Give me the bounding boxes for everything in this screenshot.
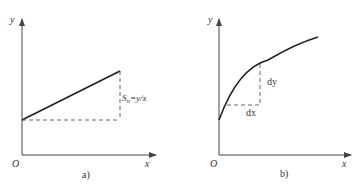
a-y-label: y: [10, 14, 14, 25]
a-origin-label: O: [12, 158, 19, 169]
diagram-canvas: [0, 0, 358, 186]
b-origin-label: O: [210, 158, 217, 169]
b-y-label: y: [208, 14, 212, 25]
a-linear-line: [22, 71, 120, 120]
b-dx-label: dx: [246, 107, 256, 118]
panel-b: [219, 19, 351, 155]
a-annotation: Sn=y/x: [122, 93, 147, 105]
a-x-label: x: [145, 158, 149, 169]
b-dy-label: dy: [267, 76, 277, 87]
a-caption: a): [82, 169, 90, 180]
b-x-label: x: [342, 158, 346, 169]
b-caption: b): [280, 168, 288, 179]
panel-a: [22, 19, 156, 155]
